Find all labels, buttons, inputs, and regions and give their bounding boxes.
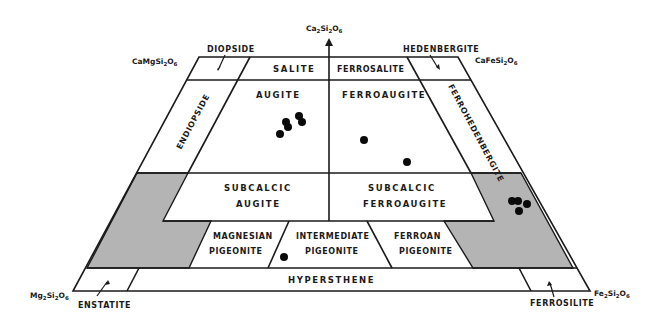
data-point — [298, 118, 306, 126]
line-ferrosilite-boundary — [519, 268, 531, 291]
data-point — [284, 123, 292, 131]
apex-mg2si2o6: Mg2Si2O6 — [30, 291, 69, 301]
data-point — [360, 136, 368, 144]
pyroxene-quadrilateral-diagram: Ca2Si2O6 CaMgSi2O6 CaFeSi2O6 Mg2Si2O6 Fe… — [0, 0, 662, 324]
data-point — [514, 197, 522, 205]
apex-fe2si2o6: Fe2Si2O6 — [594, 289, 630, 299]
label-hypersthene: HYPERSTHENE — [288, 275, 375, 285]
label-subcalcic-ferroaugite-2: FERROAUGITE — [363, 199, 447, 209]
enstatite-pointer — [97, 282, 107, 296]
label-intermediate-pigeonite-1: INTERMEDIATE — [296, 232, 370, 241]
label-intermediate-pigeonite-2: PIGEONITE — [305, 247, 359, 256]
apex-ca2si2o6: Ca2Si2O6 — [306, 24, 343, 34]
label-ferrohedenbergite: FERROHEDENBERGITE — [446, 83, 505, 184]
label-salite: SALITE — [273, 64, 315, 74]
label-hedenbergite: HEDENBERGITE — [403, 45, 479, 54]
label-endiopside: ENDIOPSIDE — [175, 93, 212, 151]
label-subcalcic-augite-2: AUGITE — [236, 199, 281, 209]
label-subcalcic-augite-1: SUBCALCIC — [224, 183, 292, 193]
label-enstatite: ENSTATITE — [78, 301, 131, 310]
data-point — [276, 130, 284, 138]
label-ferroan-pigeonite-1: FERROAN — [394, 232, 441, 241]
label-ferrosilite: FERROSILITE — [530, 299, 594, 308]
data-point — [515, 207, 523, 215]
label-ferrosalite: FERROSALITE — [337, 65, 405, 74]
apex-cafesi2o6: CaFeSi2O6 — [475, 56, 518, 66]
pointer-arrow-icon — [105, 280, 110, 285]
data-point — [523, 200, 531, 208]
apex-camgsi2o6: CaMgSi2O6 — [132, 57, 178, 67]
label-magnesian-pigeonite-2: PIGEONITE — [209, 247, 263, 256]
label-diopside: DIOPSIDE — [207, 45, 255, 54]
data-point — [280, 253, 288, 261]
label-ferroaugite: FERROAUGITE — [342, 90, 426, 100]
label-ferroan-pigeonite-2: PIGEONITE — [399, 247, 453, 256]
arrow-up-icon — [325, 38, 333, 46]
line-int-fer-pigeonite — [367, 221, 392, 268]
line-mag-int-pigeonite — [268, 221, 289, 268]
label-subcalcic-ferroaugite-1: SUBCALCIC — [368, 183, 436, 193]
label-magnesian-pigeonite-1: MAGNESIAN — [213, 232, 273, 241]
line-enstatite-boundary — [127, 268, 139, 291]
label-augite: AUGITE — [256, 90, 301, 100]
data-point — [403, 158, 411, 166]
